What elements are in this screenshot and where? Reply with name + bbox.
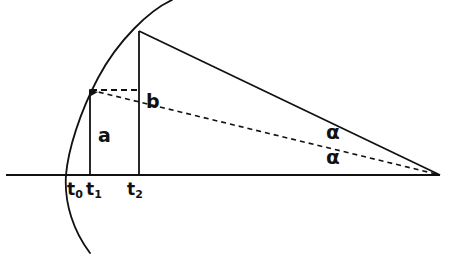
label-t2: t2 (127, 181, 143, 198)
solid-hypotenuse (139, 31, 440, 175)
label-t2-sub: 2 (135, 188, 143, 201)
label-angle-alpha-upper: α (326, 122, 340, 142)
label-t1-sub: 1 (94, 188, 102, 201)
dashed-hypotenuse (90, 90, 440, 175)
label-t0-base: t (67, 179, 75, 199)
label-angle-alpha-lower: α (326, 147, 340, 167)
label-segment-a: a (98, 126, 111, 145)
label-t0-sub: 0 (75, 188, 83, 201)
geometry-svg (0, 0, 451, 258)
label-t1: t1 (86, 181, 102, 198)
label-t0: t0 (67, 181, 83, 198)
label-t1-base: t (86, 179, 94, 199)
label-t2-base: t (127, 179, 135, 199)
label-segment-b: b (146, 92, 160, 111)
arc-curve (66, 0, 172, 253)
diagram-canvas: t0 t1 t2 a b α α (0, 0, 451, 258)
